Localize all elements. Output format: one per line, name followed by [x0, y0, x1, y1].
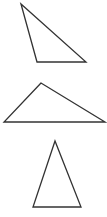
isosceles-triangle-bottom: [33, 141, 81, 207]
obtuse-triangle-middle: [4, 83, 105, 122]
obtuse-triangle-top: [21, 4, 86, 62]
triangles-diagram: [0, 0, 107, 217]
